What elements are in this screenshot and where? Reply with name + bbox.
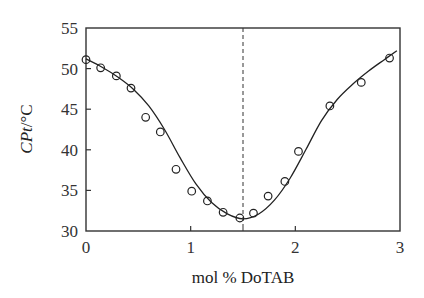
- y-tick-label: 50: [61, 60, 78, 79]
- tick-labels: 0123303540455055: [61, 19, 404, 257]
- x-tick-label: 3: [396, 238, 405, 257]
- data-point: [295, 148, 303, 156]
- fit-line: [86, 51, 397, 219]
- data-point: [142, 114, 150, 122]
- y-tick-label: 55: [61, 19, 78, 38]
- data-point: [264, 192, 272, 200]
- y-axis-label-unit: /°C: [17, 104, 36, 127]
- x-tick-label: 0: [82, 238, 91, 257]
- y-tick-label: 40: [61, 141, 78, 160]
- data-point: [250, 209, 258, 217]
- data-point: [127, 84, 135, 92]
- y-tick-label: 45: [61, 100, 78, 119]
- y-axis-label: CPt/°C: [17, 104, 36, 153]
- data-markers: [82, 54, 393, 222]
- data-point: [188, 187, 196, 195]
- y-tick-label: 35: [61, 181, 78, 200]
- data-point: [157, 128, 165, 136]
- data-point: [357, 79, 365, 87]
- x-tick-label: 1: [186, 238, 195, 257]
- axis-ticks: [86, 69, 295, 231]
- data-point: [172, 165, 180, 173]
- x-axis-label: mol % DoTAB: [192, 268, 295, 287]
- fit-curve: [86, 51, 397, 219]
- x-tick-label: 2: [291, 238, 300, 257]
- chart: 0123303540455055 mol % DoTAB CPt/°C: [0, 0, 424, 298]
- y-tick-label: 30: [61, 222, 78, 241]
- y-axis-label-italic: CPt: [17, 126, 36, 154]
